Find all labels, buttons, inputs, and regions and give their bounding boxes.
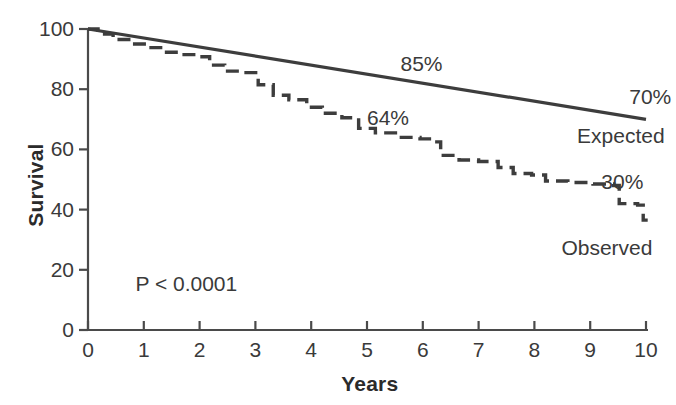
y-tick-label: 40: [51, 198, 74, 222]
expected-endpoint-label: 70%: [629, 85, 671, 109]
series-label-expected: Expected: [577, 124, 665, 148]
x-tick-label: 4: [305, 338, 317, 362]
x-tick-label: 1: [138, 338, 150, 362]
y-tick-label: 100: [39, 17, 74, 41]
x-tick-label: 9: [584, 338, 596, 362]
plot-area: [0, 0, 676, 405]
x-tick-label: 3: [250, 338, 262, 362]
observed-endpoint-label: 30%: [601, 170, 643, 194]
y-axis-title: Survival: [24, 143, 48, 226]
series-label-observed: Observed: [561, 236, 652, 260]
x-tick-label: 0: [82, 338, 94, 362]
x-tick-label: 7: [473, 338, 485, 362]
survival-chart: Survival Years 020406080100012345678910 …: [0, 0, 676, 405]
x-tick-label: 6: [417, 338, 429, 362]
x-axis-title: Years: [341, 372, 398, 396]
observed-midpoint-label: 64%: [367, 106, 409, 130]
x-tick-label: 10: [634, 338, 657, 362]
y-tick-label: 60: [51, 137, 74, 161]
x-tick-label: 5: [361, 338, 373, 362]
p-value-label: P < 0.0001: [135, 272, 237, 296]
expected-midpoint-label: 85%: [400, 52, 442, 76]
y-tick-label: 20: [51, 258, 74, 282]
y-tick-label: 80: [51, 77, 74, 101]
y-tick-label: 0: [62, 318, 74, 342]
x-tick-label: 8: [529, 338, 541, 362]
x-tick-label: 2: [194, 338, 206, 362]
